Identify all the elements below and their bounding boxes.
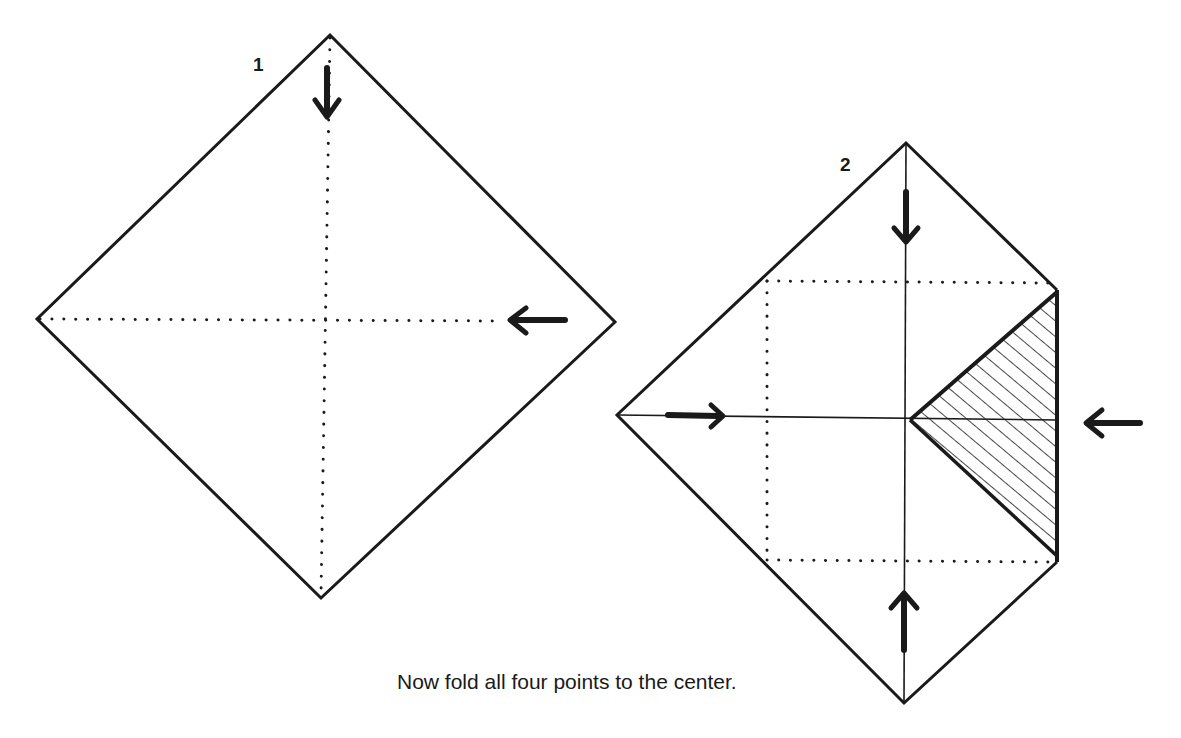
arrow-left-icon: [510, 308, 565, 333]
origami-diagram-canvas: [0, 0, 1181, 738]
step-2-label: 2: [840, 155, 851, 174]
arrow-left-icon: [1086, 410, 1140, 436]
arrow-down-icon: [315, 68, 339, 117]
arrow-right-icon: [668, 405, 723, 427]
diagram-1-vertical-fold-line: [321, 38, 330, 596]
arrow-up-icon: [891, 593, 917, 650]
instruction-caption: Now fold all four points to the center.: [397, 670, 737, 693]
diagram-2: [617, 143, 1140, 703]
diagram-1: [37, 35, 615, 598]
diagram-1-horizontal-fold-line: [40, 319, 500, 321]
arrow-down-icon: [894, 192, 918, 242]
diagram-2-folded-flap-hatched: [910, 290, 1057, 556]
step-1-label: 1: [253, 55, 264, 74]
diagram-1-square-outline: [37, 35, 615, 598]
